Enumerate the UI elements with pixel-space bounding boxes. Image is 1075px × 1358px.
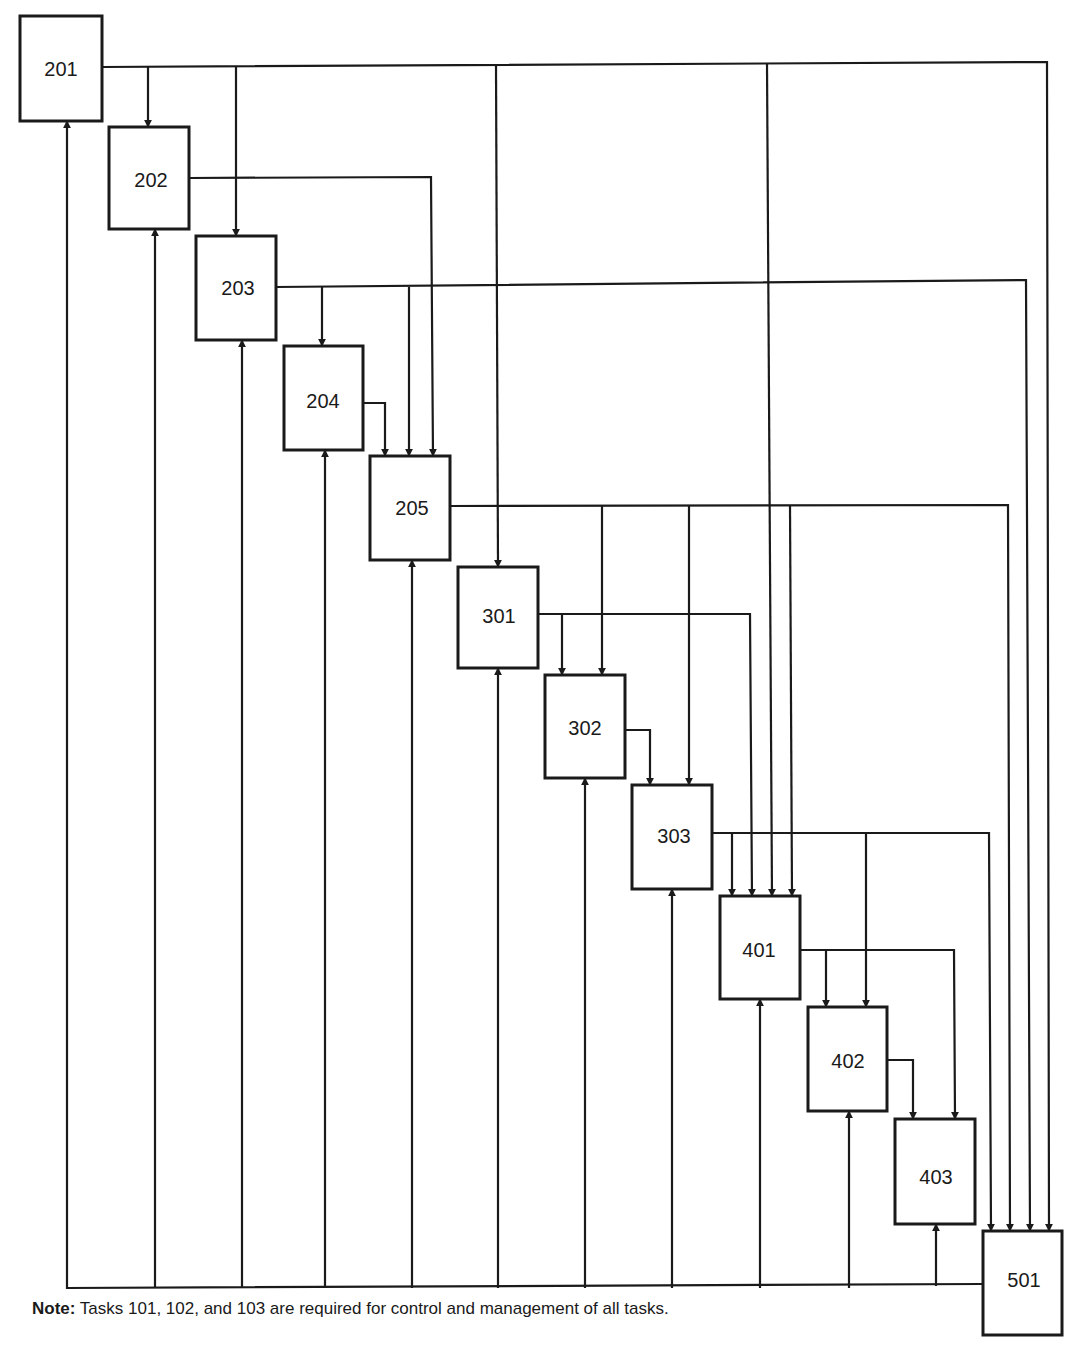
task-node-301: 301 bbox=[458, 567, 538, 668]
task-label: 401 bbox=[742, 939, 775, 961]
task-label: 201 bbox=[44, 58, 77, 80]
task-node-402: 402 bbox=[808, 1007, 887, 1111]
task-node-203: 203 bbox=[196, 236, 276, 340]
task-label: 203 bbox=[221, 277, 254, 299]
task-node-201: 201 bbox=[20, 16, 102, 121]
task-label: 402 bbox=[831, 1050, 864, 1072]
task-label: 501 bbox=[1007, 1269, 1040, 1291]
task-label: 303 bbox=[657, 825, 690, 847]
task-node-401: 401 bbox=[720, 896, 800, 999]
task-label: 302 bbox=[568, 717, 601, 739]
task-node-205: 205 bbox=[370, 456, 450, 560]
task-node-204: 204 bbox=[284, 346, 363, 450]
task-nodes: 201 202 203 204 205 301 302 303 bbox=[20, 16, 1062, 1335]
task-node-302: 302 bbox=[545, 675, 625, 778]
task-label: 403 bbox=[919, 1166, 952, 1188]
task-label: 205 bbox=[395, 497, 428, 519]
task-node-403: 403 bbox=[895, 1119, 975, 1224]
footnote-label: Note: bbox=[32, 1299, 75, 1318]
task-node-501: 501 bbox=[983, 1231, 1062, 1335]
task-dependency-diagram: 201 202 203 204 205 301 302 303 bbox=[0, 0, 1075, 1358]
task-label: 301 bbox=[482, 605, 515, 627]
task-node-303: 303 bbox=[632, 785, 712, 889]
task-node-202: 202 bbox=[109, 127, 189, 229]
task-label: 204 bbox=[306, 390, 339, 412]
footnote: Note: Tasks 101, 102, and 103 are requir… bbox=[32, 1298, 822, 1320]
footnote-text: Tasks 101, 102, and 103 are required for… bbox=[75, 1299, 668, 1318]
task-label: 202 bbox=[134, 169, 167, 191]
